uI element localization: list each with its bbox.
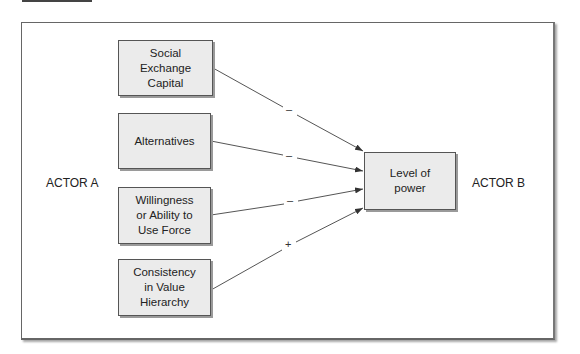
factor-value-consistency: Consistency in Value Hierarchy <box>118 259 211 316</box>
sign-negative-3: – <box>287 194 293 206</box>
factor-social-exchange-capital: Social Exchange Capital <box>118 40 213 96</box>
sign-positive-4: + <box>285 238 291 250</box>
factor-alternatives: Alternatives <box>118 113 211 169</box>
factor-willingness-force: Willingness or Ability to Use Force <box>118 187 211 244</box>
actor-a-label: ACTOR A <box>46 176 98 190</box>
sign-negative-2: – <box>286 149 292 161</box>
actor-b-label: ACTOR B <box>472 176 525 190</box>
outcome-level-of-power: Level of power <box>364 152 456 210</box>
sign-negative-1: – <box>286 103 292 115</box>
